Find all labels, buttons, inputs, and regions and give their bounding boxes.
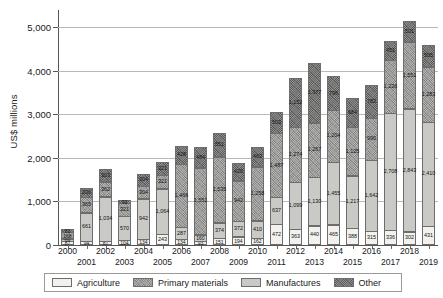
segment-value-label: 503 <box>272 120 281 125</box>
segment-value-label: 1,034 <box>99 217 113 222</box>
segment-value-label: 1,377 <box>308 91 322 96</box>
segment-value-label: 1,130 <box>308 199 322 204</box>
x-axis-labels: 2000200120022003200420052006200720082009… <box>58 246 438 272</box>
segment-other-2018: 501 <box>403 21 415 43</box>
segment-other-2011: 503 <box>270 112 282 134</box>
y-axis-tick-label: 4,000 <box>27 65 51 76</box>
legend-item-other[interactable]: Other <box>334 278 395 288</box>
segment-agriculture-2016: 315 <box>365 231 377 245</box>
legend-label: Agriculture <box>77 278 120 288</box>
segment-other-2007: 484 <box>194 147 206 168</box>
segment-primary-materials-2019: 1,283 <box>422 67 434 123</box>
segment-value-label: 1,064 <box>156 209 170 214</box>
legend-swatch-icon <box>52 278 72 288</box>
legend-swatch-icon <box>334 278 354 288</box>
segment-value-label: 942 <box>234 198 243 203</box>
segment-primary-materials-2007: 1,551 <box>194 168 206 235</box>
bar-2012: 3631,0991,2741,152 <box>289 78 301 245</box>
segment-value-label: 1,535 <box>213 187 227 192</box>
segment-other-2010: 463 <box>251 147 263 167</box>
segment-primary-materials-2006: 1,466 <box>175 164 187 228</box>
segment-value-label: 505 <box>424 54 433 59</box>
segment-primary-materials-2018: 1,551 <box>403 42 415 109</box>
legend-item-primary-materials[interactable]: Primary materials <box>133 278 241 288</box>
segment-value-label: 1,267 <box>308 148 322 153</box>
segment-value-label: 315 <box>367 235 376 240</box>
segment-value-label: 321 <box>158 166 167 171</box>
segment-other-2005: 321 <box>156 162 168 176</box>
segment-primary-materials-2002: 362 <box>99 182 111 198</box>
bar-2001: 94661365236 <box>80 188 92 245</box>
legend-label: Other <box>359 278 382 288</box>
segment-value-label: 303 <box>101 173 110 178</box>
segment-manufactures-2018: 2,843 <box>403 109 415 233</box>
segment-value-label: 410 <box>253 227 262 232</box>
segment-value-label: 1,551 <box>403 73 417 78</box>
segment-agriculture-2014: 465 <box>327 225 339 245</box>
segment-value-label: 990 <box>367 137 376 142</box>
legend-item-manufactures[interactable]: Manufactures <box>241 278 334 288</box>
bar-2015: 3881,2171,125684 <box>346 99 358 245</box>
chart-legend: AgriculturePrimary materialsManufactures… <box>44 273 402 292</box>
x-axis-label-2006: 2006 <box>172 246 191 256</box>
segment-other-2001: 236 <box>80 188 92 198</box>
segment-manufactures-2008: 374 <box>213 223 225 239</box>
bar-2019: 4312,4101,283505 <box>422 46 434 245</box>
segment-value-label: 243 <box>158 237 167 242</box>
segment-value-label: 501 <box>405 29 414 34</box>
segment-value-label: 81 <box>65 228 71 233</box>
segment-value-label: 194 <box>234 238 242 243</box>
segment-manufactures-2001: 661 <box>80 213 92 242</box>
x-axis-label-2002: 2002 <box>96 246 115 256</box>
segment-other-2012: 1,152 <box>289 78 301 128</box>
segment-manufactures-2002: 1,034 <box>99 197 111 242</box>
segment-value-label: 162 <box>253 239 261 244</box>
segment-value-label: 134 <box>177 240 185 245</box>
bar-2013: 4401,1301,2671,377 <box>308 64 320 245</box>
segment-value-label: 388 <box>348 234 357 239</box>
legend-swatch-icon <box>241 278 261 288</box>
segment-value-label: 570 <box>120 226 129 231</box>
x-axis-label-2007: 2007 <box>191 257 210 267</box>
segment-value-label: 1,204 <box>327 134 341 139</box>
segment-manufactures-2007: 160 <box>194 235 206 242</box>
segment-other-2003: 92 <box>118 200 130 204</box>
legend-swatch-icon <box>133 278 153 288</box>
segment-value-label: 451 <box>386 48 395 53</box>
segment-other-2002: 303 <box>99 169 111 182</box>
segment-value-label: 1,455 <box>327 191 341 196</box>
segment-value-label: 363 <box>291 234 300 239</box>
bar-2009: 194372942420 <box>232 164 244 246</box>
x-axis-label-2012: 2012 <box>286 246 305 256</box>
segment-manufactures-2004: 942 <box>137 199 149 240</box>
stacked-bar-chart: US$ millions 01,0002,0003,0004,0005,000 … <box>0 0 443 298</box>
x-axis-label-2013: 2013 <box>305 257 324 267</box>
segment-value-label: 304 <box>139 177 148 182</box>
y-axis-tick-label: 5,000 <box>27 22 51 33</box>
segment-agriculture-2019: 431 <box>422 226 434 245</box>
segment-agriculture-2005: 243 <box>156 234 168 245</box>
segment-value-label: 684 <box>348 110 357 115</box>
segment-other-2019: 505 <box>422 45 434 67</box>
bar-2011: 4726371,487503 <box>270 113 282 245</box>
bar-2002: 871,034362303 <box>99 170 111 245</box>
segment-other-2015: 684 <box>346 98 358 128</box>
y-axis-title: US$ millions <box>8 62 19 182</box>
segment-value-label: 1,152 <box>289 100 303 105</box>
segment-agriculture-2013: 440 <box>308 226 320 245</box>
segment-manufactures-2019: 2,410 <box>422 122 434 227</box>
segment-value-label: 336 <box>386 235 395 240</box>
bar-2016: 3151,642990782 <box>365 85 377 245</box>
segment-value-label: 2,410 <box>422 172 436 177</box>
x-axis-label-2000: 2000 <box>58 246 77 256</box>
segment-value-label: 1,125 <box>346 149 360 154</box>
legend-item-agriculture[interactable]: Agriculture <box>52 278 133 288</box>
segment-value-label: 160 <box>196 236 204 241</box>
x-axis-label-2011: 2011 <box>267 257 285 267</box>
segment-value-label: 134 <box>139 240 147 245</box>
segment-value-label: 484 <box>196 155 205 160</box>
x-axis-label-2008: 2008 <box>210 246 229 256</box>
segment-value-label: 1,551 <box>194 199 208 204</box>
y-axis-tick-label: 3,000 <box>27 109 51 120</box>
x-axis-label-2010: 2010 <box>248 246 267 256</box>
